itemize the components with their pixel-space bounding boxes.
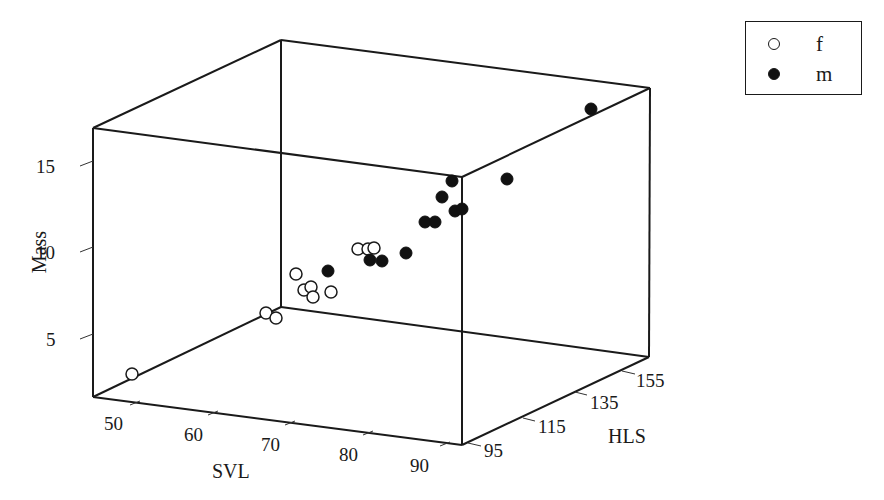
box-edge — [281, 307, 649, 357]
open-circle-icon — [768, 38, 780, 50]
y-tick — [468, 443, 481, 446]
data-point-f — [307, 291, 319, 303]
box-edge — [281, 40, 650, 88]
data-point-m — [585, 103, 597, 115]
data-point-m — [436, 191, 448, 203]
data-point-m — [400, 247, 412, 259]
z-tick-label: 5 — [46, 329, 56, 350]
legend-label-f: f — [816, 30, 823, 58]
box-edge — [93, 307, 281, 397]
y-tick — [523, 418, 535, 421]
legend-item-f: f — [746, 30, 861, 58]
x-tick-label: 70 — [261, 434, 280, 455]
filled-circle-icon — [768, 68, 780, 80]
x-tick-label: 90 — [410, 455, 429, 476]
legend-item-m: m — [746, 60, 861, 88]
data-point-f — [270, 312, 282, 324]
z-axis-label: Mass — [28, 231, 50, 273]
x-tick-label: 60 — [184, 424, 203, 445]
box-edge — [93, 40, 281, 128]
data-point-m — [376, 255, 388, 267]
data-point-m — [322, 265, 334, 277]
box-edge — [93, 128, 462, 177]
data-point-m — [429, 216, 441, 228]
data-point-f — [368, 242, 380, 254]
data-point-m — [364, 254, 376, 266]
y-tick-label: 155 — [636, 370, 665, 391]
y-tick-label: 135 — [590, 392, 619, 413]
axis-labels: SVL HLS Mass — [28, 231, 646, 482]
z-tick — [80, 161, 93, 166]
y-tick — [575, 392, 587, 395]
y-tick-label: 95 — [484, 440, 503, 461]
legend: f m — [745, 21, 862, 95]
data-point-m — [446, 175, 458, 187]
data-point-f — [290, 268, 302, 280]
y-tick — [622, 371, 635, 374]
z-tick — [80, 334, 93, 339]
data-point-m — [456, 203, 468, 215]
box-edge — [462, 88, 650, 177]
x-tick-label: 80 — [339, 444, 358, 465]
x-tick-label: 50 — [104, 413, 123, 434]
data-point-m — [501, 173, 513, 185]
data-points — [126, 103, 597, 380]
data-point-f — [126, 368, 138, 380]
z-tick — [80, 247, 93, 252]
data-point-f — [325, 286, 337, 298]
x-axis-label: SVL — [212, 460, 250, 482]
z-tick-label: 15 — [36, 156, 55, 177]
y-tick-label: 115 — [538, 416, 566, 437]
legend-label-m: m — [816, 60, 832, 88]
y-axis-label: HLS — [608, 425, 646, 447]
box-edge — [649, 88, 650, 357]
